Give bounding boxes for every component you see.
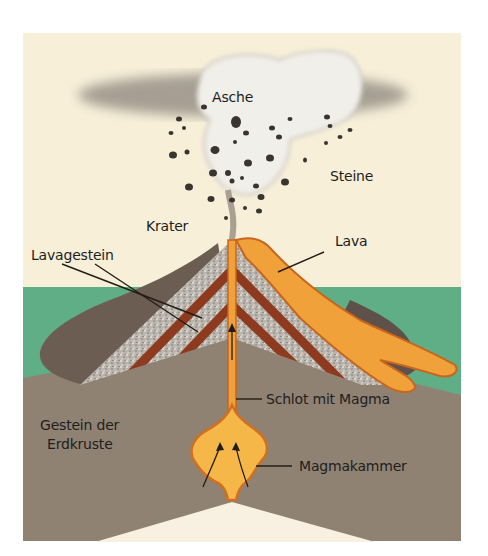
label-ash: Asche	[212, 89, 253, 106]
label-magma-chamber: Magmakammer	[299, 458, 407, 475]
label-crust-line2: Erdkruste	[47, 436, 113, 453]
label-lava: Lava	[335, 233, 367, 250]
label-stones: Steine	[330, 168, 373, 185]
label-crater: Krater	[146, 218, 188, 235]
label-crust-line1: Gestein der	[40, 417, 119, 434]
volcano-diagram: Asche Steine Krater Lava Lavagestein Sch…	[0, 0, 488, 556]
label-vent: Schlot mit Magma	[266, 391, 390, 408]
volcano-illustration	[0, 0, 488, 556]
label-lava-rock: Lavagestein	[31, 247, 114, 264]
